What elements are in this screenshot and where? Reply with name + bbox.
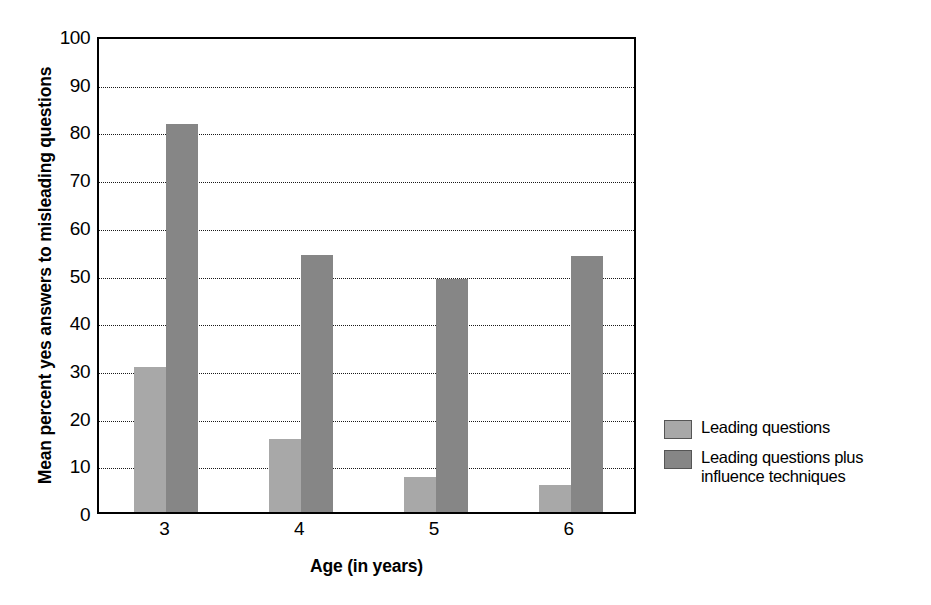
chart-legend: Leading questionsLeading questions plus … — [664, 418, 924, 496]
legend-item-label: Leading questions — [701, 418, 830, 437]
legend-swatch-icon — [664, 420, 692, 439]
y-axis-tick-label: 70 — [70, 171, 90, 190]
bar-6-series-1 — [539, 485, 571, 512]
bar-group-container — [99, 39, 634, 512]
legend-item-label: Leading questions plus influence techniq… — [701, 448, 924, 487]
legend-item: Leading questions — [664, 418, 924, 439]
legend-swatch-icon — [664, 450, 692, 469]
x-axis-title: Age (in years) — [97, 556, 636, 577]
bar-3-series-1 — [134, 367, 166, 512]
y-axis-tick-label: 30 — [70, 361, 90, 380]
y-axis-tick-label: 60 — [70, 218, 90, 237]
y-axis-tick-label: 40 — [70, 314, 90, 333]
y-axis-tick-label: 20 — [70, 409, 90, 428]
bar-4-series-1 — [269, 439, 301, 512]
x-axis-tick-label: 6 — [564, 518, 574, 540]
legend-item: Leading questions plus influence techniq… — [664, 448, 924, 487]
y-axis-tick-label: 90 — [70, 75, 90, 94]
y-axis-tick-labels: 0102030405060708090100 — [40, 37, 90, 514]
y-axis-tick-label: 50 — [70, 266, 90, 285]
y-axis-tick-label: 80 — [70, 123, 90, 142]
x-axis-tick-label: 3 — [159, 518, 169, 540]
bar-6-series-2 — [571, 256, 603, 512]
bar-chart-figure: Mean percent yes answers to misleading q… — [0, 0, 931, 605]
y-axis-tick-label: 10 — [70, 457, 90, 476]
bar-5-series-1 — [404, 477, 436, 512]
y-axis-tick-label: 100 — [60, 28, 90, 47]
x-axis-tick-labels: 3456 — [97, 518, 636, 550]
bar-5-series-2 — [436, 279, 468, 512]
bar-4-series-2 — [301, 255, 333, 512]
x-axis-tick-label: 4 — [294, 518, 304, 540]
y-axis-tick-label: 0 — [80, 505, 90, 524]
plot-area — [97, 37, 636, 514]
x-axis-tick-label: 5 — [429, 518, 439, 540]
bar-3-series-2 — [166, 124, 198, 512]
